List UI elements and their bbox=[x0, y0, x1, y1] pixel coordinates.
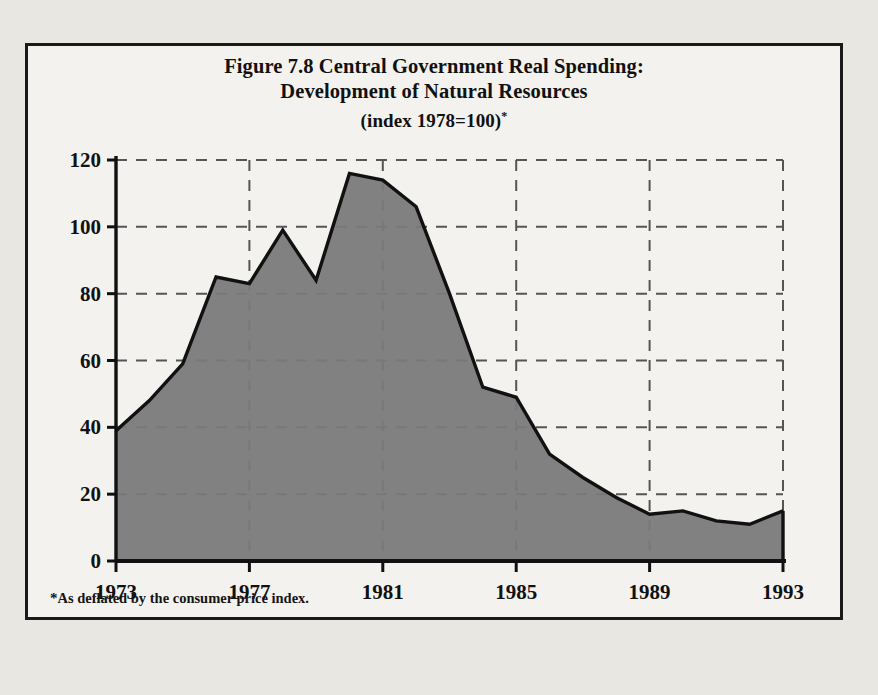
series-area-fill bbox=[116, 173, 783, 561]
area-chart-svg: 020406080100120 197319771981198519891993 bbox=[28, 46, 846, 623]
y-axis-tick-label: 20 bbox=[80, 482, 101, 506]
footnote-text: As deflated by the consumer price index. bbox=[58, 590, 309, 606]
y-axis-tick-label: 120 bbox=[70, 148, 102, 172]
y-axis-tick-label: 100 bbox=[70, 215, 102, 239]
footnote: *As deflated by the consumer price index… bbox=[50, 590, 309, 607]
y-axis-tick-labels: 020406080100120 bbox=[70, 148, 102, 573]
x-axis-tick-label: 1985 bbox=[495, 580, 537, 604]
plot-area: 020406080100120 197319771981198519891993 bbox=[28, 46, 846, 623]
x-axis-tick-label: 1981 bbox=[362, 580, 404, 604]
figure-frame: Figure 7.8 Central Government Real Spend… bbox=[25, 43, 843, 620]
y-axis-tick-label: 40 bbox=[80, 415, 101, 439]
footnote-marker: * bbox=[50, 590, 58, 606]
series-area-group bbox=[116, 173, 783, 561]
y-axis-tick-label: 0 bbox=[91, 549, 102, 573]
x-axis-tick-label: 1993 bbox=[762, 580, 804, 604]
y-axis-tick-label: 80 bbox=[80, 282, 101, 306]
y-axis-tick-label: 60 bbox=[80, 349, 101, 373]
x-axis-tick-label: 1989 bbox=[629, 580, 671, 604]
